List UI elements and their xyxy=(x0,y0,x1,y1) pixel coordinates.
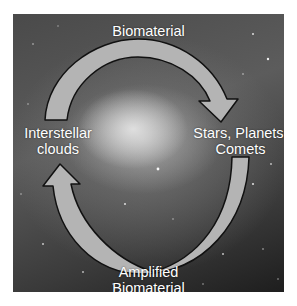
label-line: Biomaterial xyxy=(13,280,284,292)
arrow-bottom xyxy=(43,157,249,274)
label-line: clouds xyxy=(13,141,103,157)
arrow-top xyxy=(45,39,238,122)
node-biomaterial-label: Biomaterial xyxy=(13,23,284,39)
stray-mark xyxy=(154,2,158,6)
node-interstellar-clouds-label: Interstellar clouds xyxy=(13,125,103,157)
label-line: Comets xyxy=(183,141,284,157)
node-amplified-biomaterial-label: Amplified Biomaterial xyxy=(13,264,284,292)
label-line: Amplified xyxy=(13,264,284,280)
galaxy-background: Biomaterial Interstellar clouds Stars, P… xyxy=(13,14,284,292)
label-line: Stars, Planets. xyxy=(183,125,284,141)
node-stars-planets-comets-label: Stars, Planets. Comets xyxy=(183,125,284,157)
label-line: Interstellar xyxy=(13,125,103,141)
